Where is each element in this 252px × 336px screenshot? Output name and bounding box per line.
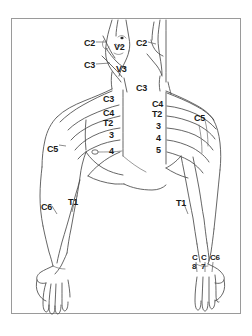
label-t3-chest-left: 3 <box>109 131 114 140</box>
dermatome-figure: C2 V2 C2 C3 V3 C3 C3 C4 T2 3 4 C4 T2 3 4… <box>0 0 252 336</box>
label-t3-chest-right: 3 <box>156 122 161 131</box>
label-c2-left: C2 <box>84 39 95 48</box>
label-t5-chest-right: 5 <box>156 146 161 155</box>
label-c5-right-shoulder: C5 <box>194 114 205 123</box>
label-c2-right: C2 <box>136 39 147 48</box>
torso-midline-link <box>123 156 166 190</box>
label-c8-hand-number: 8 <box>192 263 196 271</box>
label-t4-chest-left: 4 <box>109 147 114 156</box>
label-c6-left-arm: C6 <box>41 203 52 212</box>
label-c4-chest-left: C4 <box>103 109 114 118</box>
label-c6-hand: C6 <box>210 254 220 262</box>
right-body-outline <box>166 91 225 311</box>
left-head-profile <box>102 20 130 92</box>
label-v3-left: V3 <box>116 65 127 74</box>
label-t2-chest-right: T2 <box>152 110 162 119</box>
label-t1-right-arm: T1 <box>176 199 186 208</box>
label-c7-hand-number: 7 <box>201 263 205 271</box>
label-t4-chest-right: 4 <box>156 134 161 143</box>
label-t2-chest-left: T2 <box>103 119 113 128</box>
label-c4-chest-right: C4 <box>152 100 163 109</box>
anatomy-drawing <box>0 0 252 336</box>
label-leader-lines <box>52 42 213 272</box>
label-c3-right: C3 <box>136 84 147 93</box>
label-c5-left-shoulder: C5 <box>47 145 58 154</box>
label-t1-left-arm: T1 <box>68 198 78 207</box>
label-c3-left: C3 <box>84 61 95 70</box>
label-v2-left: V2 <box>114 43 125 52</box>
label-c3-chest-left: C3 <box>103 95 114 104</box>
right-head-profile <box>147 20 171 94</box>
label-c7-hand-letter: C <box>201 254 207 262</box>
label-c8-hand-letter: C <box>192 254 198 262</box>
